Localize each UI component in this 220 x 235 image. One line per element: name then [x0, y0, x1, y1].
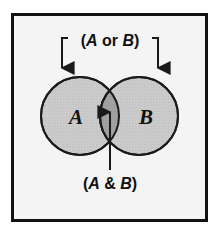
union-label-operator: or [98, 32, 123, 49]
union-label-close-paren: ) [134, 32, 139, 49]
set-label-b: B [138, 105, 153, 129]
union-label: (A or B) [81, 32, 140, 49]
set-label-a: A [67, 105, 83, 129]
intersection-label-close-paren: ) [132, 175, 137, 192]
intersection-label-set-b: B [120, 175, 132, 192]
intersection-label: (A & B) [83, 175, 137, 192]
union-label-set-a: A [85, 32, 98, 49]
union-label-set-b: B [122, 32, 134, 49]
intersection-label-operator: & [100, 175, 120, 192]
venn-diagram-figure: A B (A or B) (A & B) [0, 0, 220, 235]
venn-diagram-canvas: A B (A or B) (A & B) [0, 0, 220, 235]
intersection-label-set-a: A [87, 175, 100, 192]
